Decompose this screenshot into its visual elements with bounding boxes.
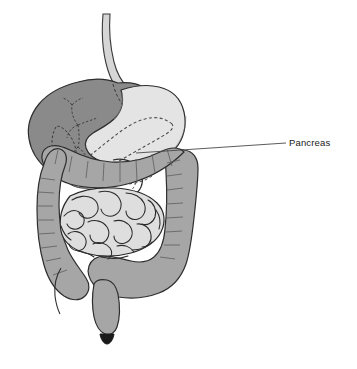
digestive-system-diagram bbox=[0, 0, 357, 369]
label-pancreas: Pancreas bbox=[289, 138, 330, 148]
anatomy-figure: Pancreas bbox=[0, 0, 357, 369]
